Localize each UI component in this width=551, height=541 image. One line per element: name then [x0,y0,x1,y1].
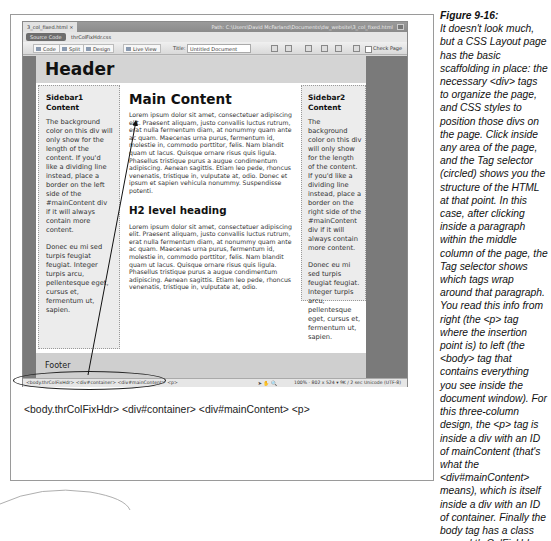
page-header[interactable]: Header [36,56,366,83]
figure-label: Figure 9-16: [440,9,548,22]
document-tab[interactable]: 3_col_fixed.html × [23,22,77,32]
sidebar2[interactable]: Sidebar2 Content The background color on… [301,85,366,301]
file-path: Path: C:\Users\David McFarland\Documents… [212,22,393,32]
window-size-info: 802 x 524 ▾ 9K / 2 sec Unicode (UTF-8) [312,380,401,385]
page-container[interactable]: Header Sidebar1 Content The background c… [36,56,366,378]
title-label: Title: [173,44,185,53]
zoom-level[interactable]: 100% [294,380,307,385]
css-file-link[interactable]: thrColFixHdr.css [71,33,111,41]
code-view-button[interactable]: Code [33,44,60,53]
document-titlebar: 3_col_fixed.html × Path: C:\Users\David … [23,22,407,32]
dreamweaver-window: 3_col_fixed.html × Path: C:\Users\David … [22,21,408,387]
title-input[interactable] [187,44,251,53]
sidebar1-paragraph-2: Donec eu mi sed turpis feugiat feugiat. … [46,243,113,315]
view-options-icon[interactable] [321,45,328,52]
tag-selector-highlight-oval [13,371,166,390]
source-code-button[interactable]: Source Code [26,33,66,41]
sidebar1[interactable]: Sidebar1 Content The background color on… [38,85,120,349]
sidebar2-paragraph-1: The background color on this div will on… [308,118,362,253]
preview-icon[interactable] [285,45,292,52]
main-heading: Main Content [129,90,296,108]
main-paragraph-2[interactable]: Lorem ipsum dolor sit amet, consectetuer… [129,223,296,291]
restore-icon[interactable] [397,24,404,30]
figure-caption-text: It doesn't look much, but a CSS Layout p… [440,23,548,541]
sidebar2-title: Sidebar2 Content [308,93,362,113]
document-toolbar: Code Split Design Live View Title: Check… [23,42,407,55]
split-view-button[interactable]: Split [59,44,84,53]
file-management-icon[interactable] [271,45,278,52]
sidebar2-paragraph-2: Donec eu mi sed turpis feugiat feugiat. … [308,261,362,342]
status-info: 100% · 802 x 524 ▾ 9K / 2 sec Unicode (U… [294,379,401,387]
h2-heading: H2 level heading [129,203,296,217]
select-tool-icon[interactable]: ➤ ✋ 🔍 [258,380,277,387]
sidebar1-paragraph-1: The background color on this div will on… [46,118,113,235]
design-view-button[interactable]: Design [83,44,114,53]
tag-path-caption: <body.thrColFixHdr> <div#container> <div… [24,403,310,417]
live-view-button[interactable]: Live View [123,44,161,53]
validate-icon[interactable] [353,45,360,52]
related-files-bar: Source Code thrColFixHdr.css [23,32,407,42]
refresh-icon[interactable] [305,45,312,52]
main-paragraph-1[interactable]: Lorem ipsum dolor sit amet, consectetuer… [129,111,296,195]
main-content[interactable]: Main Content Lorem ipsum dolor sit amet,… [124,85,300,299]
check-page-button[interactable]: Check Page [365,44,402,53]
design-view[interactable]: Header Sidebar1 Content The background c… [23,56,407,378]
sidebar1-title: Sidebar1 Content [46,93,113,113]
figure-caption: Figure 9-16: It doesn't look much, but a… [440,9,548,541]
visual-aids-icon[interactable] [335,45,342,52]
